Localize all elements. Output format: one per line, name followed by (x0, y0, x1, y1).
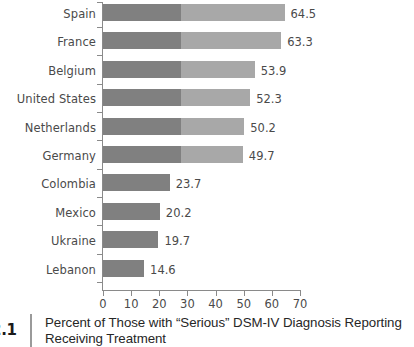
category-label: Mexico (4, 206, 96, 220)
bar-value-label: 23.7 (176, 177, 202, 191)
x-axis-tick (131, 291, 132, 296)
x-axis-tick-label: 40 (201, 297, 231, 311)
y-axis-tick (97, 282, 102, 283)
bar-chart: 64.563.353.952.350.249.723.720.219.714.6… (0, 0, 414, 305)
category-label: France (4, 35, 96, 49)
bar (103, 4, 285, 21)
figure-number: 2.1 (0, 321, 17, 339)
bar-value-label: 64.5 (291, 7, 317, 21)
y-axis-tick (97, 2, 102, 3)
x-axis-tick (272, 291, 273, 296)
y-axis-tick (97, 169, 102, 170)
bar-value-label: 20.2 (166, 206, 192, 220)
caption-divider (30, 314, 32, 347)
x-axis-tick (216, 291, 217, 296)
x-axis-tick (300, 291, 301, 296)
bar (103, 61, 255, 78)
x-axis-tick-label: 50 (229, 297, 259, 311)
y-axis-tick (97, 84, 102, 85)
y-axis-tick (97, 140, 102, 141)
caption-line-1: Percent of Those with “Serious” DSM-IV D… (45, 315, 402, 330)
category-label: Lebanon (4, 263, 96, 277)
bar-value-label: 19.7 (164, 234, 190, 248)
bar (103, 231, 158, 248)
x-axis-tick (159, 291, 160, 296)
x-axis-tick-label: 20 (144, 297, 174, 311)
category-label: Germany (4, 149, 96, 163)
category-label: Belgium (4, 64, 96, 78)
bar-value-label: 52.3 (256, 92, 282, 106)
category-label: United States (4, 92, 96, 106)
bar (103, 174, 170, 191)
figure-caption: 2.1 Percent of Those with “Serious” DSM-… (0, 312, 414, 347)
bar-value-label: 14.6 (150, 263, 176, 277)
bar-value-label: 50.2 (250, 121, 276, 135)
x-axis-tick-label: 30 (172, 297, 202, 311)
bar-value-label: 63.3 (287, 35, 313, 49)
bar (103, 146, 243, 163)
x-axis-tick-label: 10 (116, 297, 146, 311)
y-axis-tick (97, 112, 102, 113)
category-label: Ukraine (4, 234, 96, 248)
y-axis-tick (97, 27, 102, 28)
x-axis-tick (103, 291, 104, 296)
bar (103, 203, 160, 220)
caption-text: Percent of Those with “Serious” DSM-IV D… (45, 315, 414, 346)
bar (103, 118, 244, 135)
bar (103, 32, 281, 49)
category-label: Netherlands (4, 121, 96, 135)
category-label: Colombia (4, 177, 96, 191)
bar (103, 260, 144, 277)
y-axis-tick (97, 55, 102, 56)
category-label: Spain (4, 7, 96, 21)
x-axis-tick-label: 60 (257, 297, 287, 311)
x-axis-tick (187, 291, 188, 296)
bar (103, 89, 250, 106)
bar-value-label: 53.9 (261, 64, 287, 78)
y-axis-tick (97, 225, 102, 226)
caption-line-2: Receiving Treatment (45, 331, 166, 346)
x-axis-tick-label: 70 (285, 297, 315, 311)
y-axis-tick (97, 254, 102, 255)
x-axis-tick-label: 0 (88, 297, 118, 311)
y-axis-tick (97, 197, 102, 198)
bar-value-label: 49.7 (249, 149, 275, 163)
x-axis-tick (244, 291, 245, 296)
